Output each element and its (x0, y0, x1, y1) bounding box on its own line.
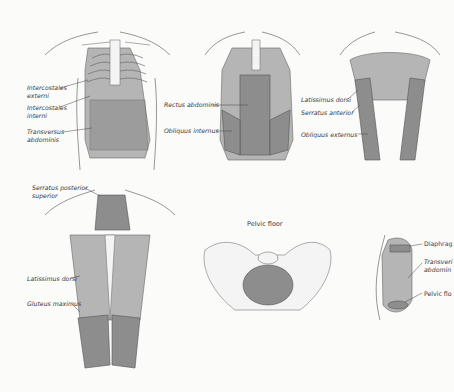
lateral-figure (376, 235, 412, 320)
label-intercostales-interni: Intercostalesinterni (27, 104, 67, 120)
pelvic-floor-figure (204, 242, 331, 310)
ribcage-figure (45, 32, 170, 170)
label-gluteus-maximus: Gluteus maximus (27, 300, 81, 308)
label-latissimus-dorsi-back: Latissimus dorsi (27, 275, 77, 283)
abdominals-figure (205, 32, 300, 160)
label-intercostales-externi: Intercostalesexterni (27, 84, 67, 100)
label-latissimus-dorsi-front: Latissimus dorsi (301, 96, 351, 104)
label-transversus-abdominis: Transversusabdominis (27, 128, 64, 144)
label-serratus-posterior-superior: Serratus posteriorsuperior (32, 184, 88, 200)
label-obliquus-internus: Obliquus internus (164, 127, 219, 135)
superficial-figure (340, 32, 440, 160)
label-serratus-anterior: Serratus anterior (301, 109, 354, 117)
label-obliquus-externus: Obliquus externus (301, 131, 358, 139)
label-transversus-abdominis-lateral: Transveriabdomin (424, 258, 453, 274)
label-rectus-abdominis: Rectus abdominis (164, 101, 219, 109)
label-pelvic-floor-lateral: Pelvic flo (424, 290, 451, 298)
pelvic-floor-title: Pelvic floor (247, 220, 283, 228)
label-diaphragm: Diaphrag (424, 240, 452, 248)
